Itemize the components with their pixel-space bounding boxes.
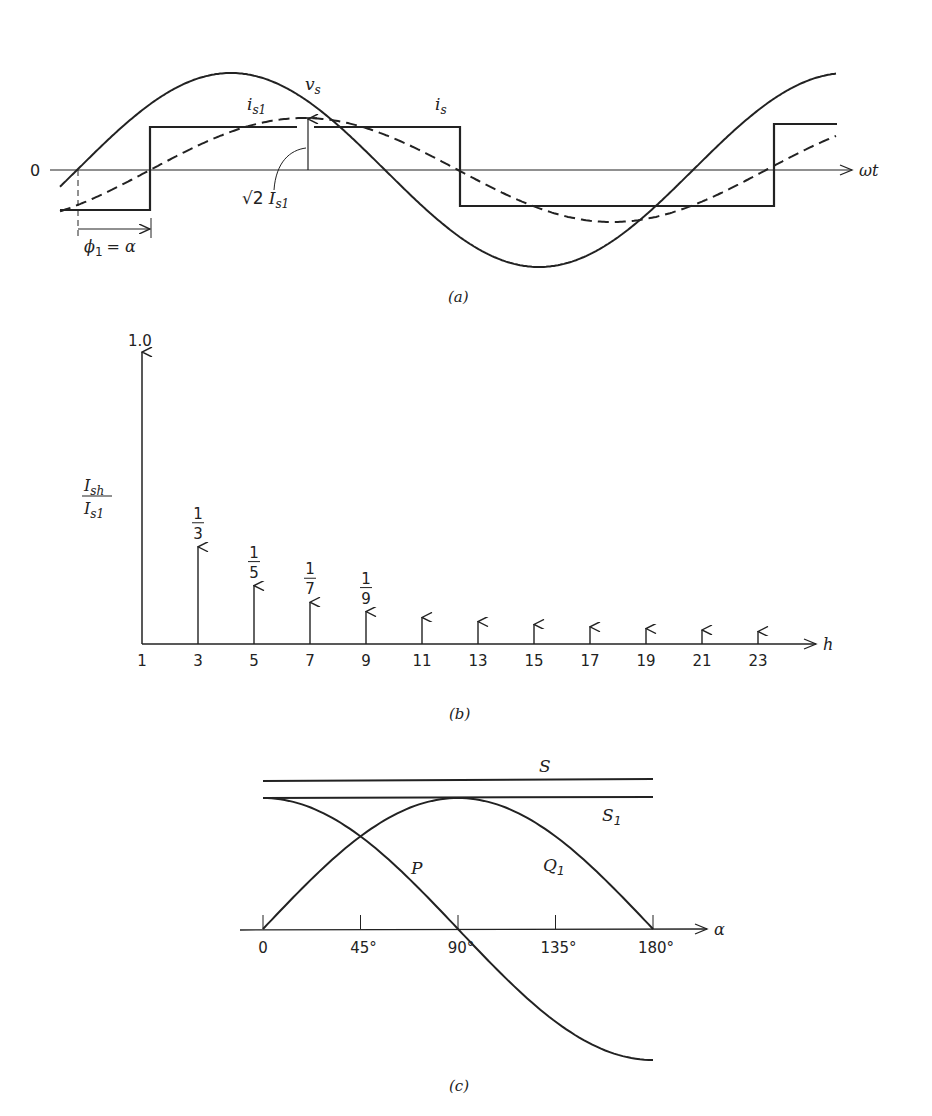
b-tick-label: 13 — [468, 652, 487, 670]
svg-text:Is1: Is1 — [83, 499, 104, 521]
b-tick-labels: 1357911131517192123 — [137, 652, 767, 670]
b-tick-label: 5 — [249, 652, 259, 670]
b-fraction-label: 15 — [248, 544, 260, 582]
b-fraction-label: 17 — [304, 560, 316, 598]
svg-text:1: 1 — [193, 505, 203, 523]
a-peak-leader — [274, 148, 306, 190]
b-tick-label: 7 — [305, 652, 315, 670]
c-tick-label: 135° — [540, 939, 576, 957]
label-peak-sqrt2-is1: √2Is1 — [242, 188, 289, 211]
panel-c: α 045°90°135°180° S S1 P Q1 (c) — [240, 756, 725, 1095]
b-fraction-label: 19 — [360, 570, 372, 608]
svg-text:1: 1 — [361, 570, 371, 588]
svg-text:9: 9 — [361, 590, 371, 608]
figure-canvas: 0 ωt vs is1 is √2Is1 ϕ1= α (a) — [0, 0, 932, 1116]
label-phi1-alpha: ϕ1= α — [84, 237, 136, 259]
b-tick-label: 23 — [748, 652, 767, 670]
b-axis-label-h: h — [823, 635, 833, 654]
svg-text:5: 5 — [249, 564, 259, 582]
svg-text:Ish: Ish — [83, 476, 104, 498]
b-tick-label: 9 — [361, 652, 371, 670]
b-fraction-label: 13 — [192, 505, 204, 543]
b-tick-label: 19 — [636, 652, 655, 670]
c-Q1-curve — [263, 798, 653, 929]
label-S1: S1 — [602, 805, 621, 828]
is-square-wave — [60, 124, 837, 210]
caption-c: (c) — [449, 1077, 469, 1095]
c-alpha-axis — [240, 929, 707, 930]
b-ylabel-fraction: Ish Is1 — [82, 476, 112, 521]
b-top-label: 1.0 — [128, 332, 152, 350]
caption-a: (a) — [448, 288, 469, 306]
caption-b: (b) — [449, 705, 470, 723]
b-tick-label: 11 — [412, 652, 431, 670]
c-tick-label: 180° — [638, 939, 674, 957]
svg-text:3: 3 — [193, 525, 203, 543]
c-S-line — [263, 779, 653, 781]
panel-b: h 1.0 Ish Is1 13151719 13579111315171921… — [82, 332, 833, 723]
label-vs: vs — [305, 74, 321, 97]
b-fraction-labels: 13151719 — [192, 505, 372, 608]
label-P: P — [410, 858, 423, 878]
c-ticks: 045°90°135°180° — [258, 915, 674, 957]
b-tick-label: 15 — [524, 652, 543, 670]
a-axis-label-wt: ωt — [859, 161, 879, 180]
b-harmonic-arrows — [142, 352, 758, 644]
b-tick-label: 1 — [137, 652, 147, 670]
c-tick-label: 45° — [350, 939, 377, 957]
c-axis-label-alpha: α — [714, 920, 725, 939]
panel-a: 0 ωt vs is1 is √2Is1 ϕ1= α (a) — [30, 73, 879, 306]
label-Q1: Q1 — [543, 855, 565, 878]
svg-text:7: 7 — [305, 580, 315, 598]
a-origin-label: 0 — [30, 161, 40, 180]
label-S: S — [539, 756, 551, 776]
c-tick-label: 0 — [258, 939, 268, 957]
b-tick-label: 17 — [580, 652, 599, 670]
b-tick-label: 21 — [692, 652, 711, 670]
label-is1: is1 — [247, 94, 266, 117]
b-tick-label: 3 — [193, 652, 203, 670]
label-is: is — [435, 94, 447, 117]
svg-text:1: 1 — [249, 544, 259, 562]
svg-text:1: 1 — [305, 560, 315, 578]
